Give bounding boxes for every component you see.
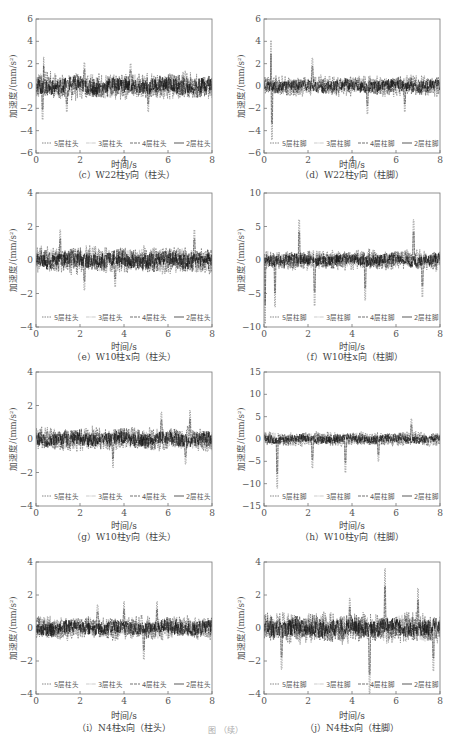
x-tick-label: 4 bbox=[349, 696, 355, 706]
x-tick-label: 0 bbox=[261, 696, 267, 706]
x-tick-label: 8 bbox=[437, 696, 443, 706]
figure-caption: 图 （续） bbox=[0, 724, 451, 735]
x-tick-label: 2 bbox=[305, 696, 311, 706]
y-axis-label: 加速度/(mm/s²) bbox=[236, 596, 246, 659]
legend-label: 4层柱脚 bbox=[370, 680, 395, 689]
legend-label: 3层柱脚 bbox=[326, 680, 351, 689]
legend-label: 2层柱脚 bbox=[414, 680, 439, 689]
series-group bbox=[264, 569, 440, 694]
legend-label: 5层柱脚 bbox=[282, 680, 307, 689]
y-tick-label: −2 bbox=[248, 656, 261, 666]
y-tick-label: 2 bbox=[255, 590, 261, 600]
y-tick-label: 4 bbox=[255, 557, 261, 567]
y-tick-label: 0 bbox=[255, 623, 261, 633]
y-tick-label: −4 bbox=[248, 689, 262, 699]
chart-j: 02468−4−2024加速度/(mm/s²)5层柱脚3层柱脚4层柱脚2层柱脚 bbox=[0, 0, 451, 738]
x-tick-label: 6 bbox=[393, 696, 399, 706]
